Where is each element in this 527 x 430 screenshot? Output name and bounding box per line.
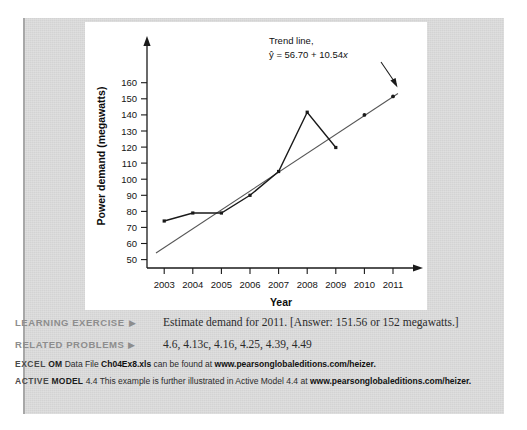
trend-line-annotation: Trend line, ŷ = 56.70 + 10.54x	[269, 35, 398, 88]
y-tick-110: 110	[122, 158, 137, 169]
active-model-number: 4.4	[86, 376, 98, 386]
triangle-marker-icon-2: ▶	[128, 340, 135, 350]
x-tick-2004: 2004	[182, 279, 203, 290]
excel-text-mid: can be found at	[154, 359, 213, 369]
active-model-row: ACTIVE MODEL 4.4 This example is further…	[15, 376, 477, 386]
x-tick-2003: 2003	[154, 279, 175, 290]
active-model-url[interactable]: www.pearsonglobaleditions.com/heizer.	[310, 376, 471, 386]
learning-exercise-row: LEARNING EXERCISE▶ Estimate demand for 2…	[15, 312, 477, 330]
annotation-line-2: ŷ = 56.70 + 10.54x	[269, 49, 349, 60]
x-tick-2009: 2009	[325, 279, 346, 290]
y-axis: 50 60 70 80 90 100 110 120	[95, 36, 151, 268]
x-tick-2010: 2010	[354, 279, 375, 290]
learning-exercise-text: Estimate demand for 2011. [Answer: 151.5…	[163, 316, 459, 328]
y-tick-100: 100	[121, 174, 137, 185]
x-tick-2011: 2011	[383, 279, 403, 290]
y-tick-90: 90	[126, 190, 137, 201]
y-tick-50: 50	[126, 254, 137, 265]
power-demand-trend-chart: 50 60 70 80 90 100 110 120	[85, 22, 427, 310]
active-kicker: ACTIVE	[15, 376, 49, 386]
y-axis-title: Power demand (megawatts)	[95, 87, 107, 226]
annotation-equation-var: x	[342, 49, 349, 60]
excel-kicker: EXCEL	[15, 359, 46, 369]
annotation-equation: ŷ = 56.70 + 10.54	[269, 49, 343, 60]
page-root: 50 60 70 80 90 100 110 120	[0, 0, 527, 430]
excel-om-kicker: OM	[48, 359, 62, 369]
y-tick-70: 70	[126, 222, 137, 233]
y-tick-160: 160	[121, 77, 137, 88]
x-tick-2005: 2005	[211, 279, 232, 290]
y-tick-150: 150	[121, 93, 137, 104]
triangle-marker-icon: ▶	[129, 318, 136, 328]
x-tick-2006: 2006	[239, 279, 260, 290]
x-axis: 2003 2004 2005 2006 2007 2008 2009 2010	[147, 264, 423, 308]
excel-data-file-name: Ch04Ex8.xls	[101, 359, 151, 369]
chart-card: 50 60 70 80 90 100 110 120	[85, 22, 427, 310]
x-tick-2008: 2008	[297, 279, 318, 290]
learning-exercise-tag: LEARNING EXERCISE	[15, 317, 125, 328]
annotation-line-1: Trend line,	[269, 35, 314, 46]
related-problems-row: RELATED PROBLEMS▶ 4.6, 4.13c, 4.16, 4.25…	[15, 334, 477, 352]
x-tick-2007: 2007	[268, 279, 289, 290]
notes-block: LEARNING EXERCISE▶ Estimate demand for 2…	[15, 312, 477, 386]
related-problems-tag: RELATED PROBLEMS	[15, 339, 124, 350]
y-tick-80: 80	[126, 206, 137, 217]
y-tick-120: 120	[121, 142, 137, 153]
excel-text-before: Data File	[65, 359, 99, 369]
y-tick-140: 140	[121, 109, 137, 120]
active-model-kicker: MODEL	[52, 376, 84, 386]
demand-markers	[163, 111, 338, 223]
y-tick-130: 130	[121, 126, 137, 137]
annotation-arrow-head	[390, 78, 397, 87]
active-model-text: This example is further illustrated in A…	[100, 376, 308, 386]
x-axis-title: Year	[270, 296, 292, 308]
related-problems-text: 4.6, 4.13c, 4.16, 4.25, 4.39, 4.49	[163, 338, 312, 350]
excel-url[interactable]: www.pearsonglobaleditions.com/heizer.	[215, 359, 376, 369]
y-tick-60: 60	[126, 238, 137, 249]
page-right-margin	[504, 18, 527, 414]
demand-series	[163, 111, 338, 223]
excel-om-row: EXCEL OM Data File Ch04Ex8.xls can be fo…	[15, 359, 477, 369]
